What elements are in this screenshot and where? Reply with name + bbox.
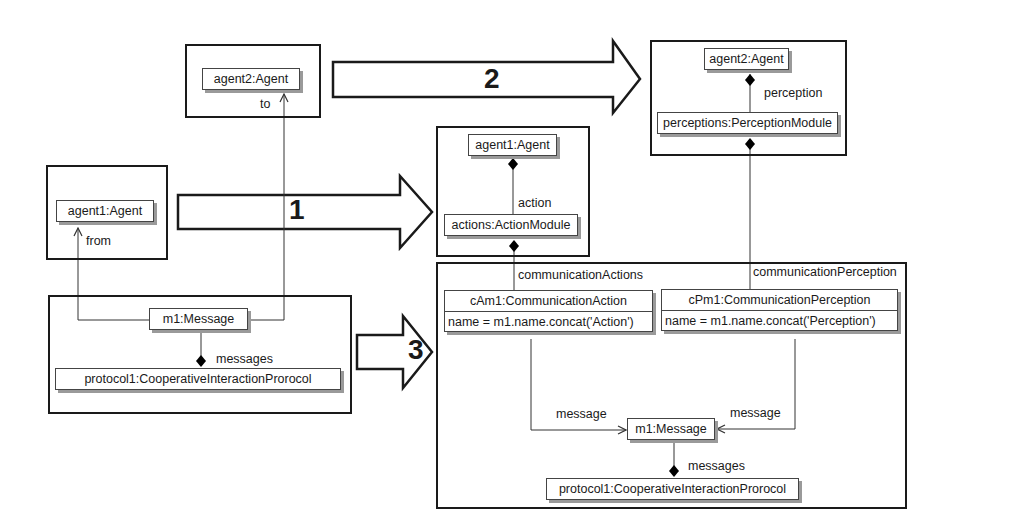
step-arrow-1 [178, 176, 432, 248]
agent1-object-right[interactable]: agent1:Agent [468, 134, 557, 156]
communication-actions-role-label: communicationActions [518, 268, 643, 282]
agent2-object-right[interactable]: agent2:Agent [704, 48, 789, 70]
perceptions-module-object[interactable]: perceptions:PerceptionModule [657, 112, 838, 134]
to-role-label: to [260, 97, 270, 111]
comm-perception-attribute: name = m1.name.concat('Perception') [662, 310, 897, 331]
actions-module-object[interactable]: actions:ActionModule [444, 214, 578, 236]
step-number-3: 3 [408, 334, 424, 366]
m1-message-object[interactable]: m1:Message [149, 308, 248, 330]
comm-action-title: cAm1:CommunicationAction [445, 291, 652, 311]
step-number-1: 1 [289, 194, 305, 226]
action-role-label: action [518, 196, 551, 210]
agent2-object[interactable]: agent2:Agent [202, 68, 300, 90]
agent1-object[interactable]: agent1:Agent [56, 200, 154, 222]
from-role-label: from [86, 234, 111, 248]
m1-message-object-right[interactable]: m1:Message [627, 418, 715, 440]
comm-action-object[interactable]: cAm1:CommunicationAction name = m1.name.… [444, 290, 653, 332]
comm-perception-title: cPm1:CommunicationPerception [662, 290, 897, 310]
message-role-label-left: message [556, 407, 607, 421]
messages-role-label: messages [216, 352, 273, 366]
protocol-object-right[interactable]: protocol1:CooperativeInteractionProrocol [546, 478, 799, 500]
messages-role-label-right: messages [688, 459, 745, 473]
communication-perception-role-label: communicationPerception [753, 265, 897, 279]
comm-action-attribute: name = m1.name.concat('Action') [445, 311, 652, 332]
comm-perception-object[interactable]: cPm1:CommunicationPerception name = m1.n… [661, 289, 898, 331]
step-number-2: 2 [484, 63, 500, 95]
perception-role-label: perception [764, 86, 822, 100]
protocol-object[interactable]: protocol1:CooperativeInteractionProrocol [55, 368, 341, 390]
message-role-label-right: message [730, 406, 781, 420]
